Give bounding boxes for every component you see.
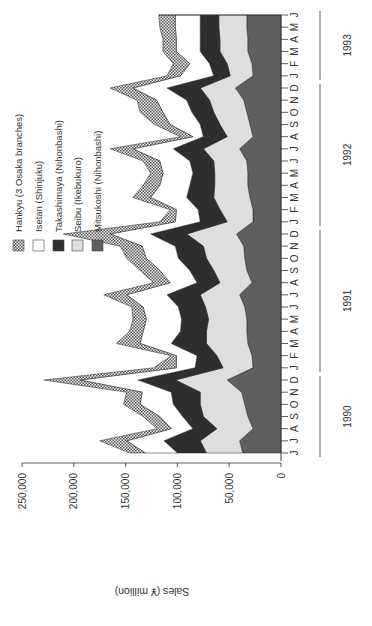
month-tick-label: J (289, 146, 300, 151)
month-tick-label: F (289, 61, 300, 67)
month-tick-label: N (289, 97, 300, 104)
month-tick-label: A (289, 328, 300, 335)
month-tick-label: D (289, 376, 300, 383)
month-tick-label: J (289, 305, 300, 310)
month-tick-label: J (289, 365, 300, 370)
value-tick-label: 100,000 (172, 473, 183, 510)
month-tick-label: J (289, 451, 300, 456)
value-tick-label: 250,000 (17, 473, 28, 510)
month-tick-label: J (289, 159, 300, 164)
value-tick-label: 200,000 (68, 473, 79, 510)
month-tick-label: J (289, 292, 300, 297)
month-tick-label: A (289, 425, 300, 432)
stacked-area-chart: 050,000100,000150,000200,000250,000 JJAS… (0, 0, 372, 626)
month-tick-label: J (289, 438, 300, 443)
year-label: 1993 (342, 34, 353, 57)
legend-label: Mitsukoshi (Nihonbashi) (92, 131, 103, 232)
month-tick-label: M (289, 47, 300, 55)
month-tick-label: O (289, 400, 300, 408)
month-tick-label: F (289, 207, 300, 213)
legend-swatch (33, 240, 44, 251)
year-label: 1990 (342, 405, 353, 428)
time-axis: JJASONDJFMAMJJASONDJFMAMJJASONDJFMAMJ199… (281, 11, 353, 461)
legend-label: Takashimaya (Nihonbashi) (53, 120, 64, 232)
month-tick-label: O (289, 108, 300, 116)
month-tick-label: J (289, 219, 300, 224)
legend-swatch (72, 240, 83, 251)
month-tick-label: J (289, 13, 300, 18)
month-tick-label: M (289, 339, 300, 347)
legend-swatch (13, 240, 24, 251)
month-tick-label: M (289, 315, 300, 323)
month-tick-label: N (289, 243, 300, 250)
year-label: 1991 (342, 289, 353, 312)
month-tick-label: J (289, 73, 300, 78)
value-tick-label: 0 (276, 473, 287, 479)
legend-swatch (53, 240, 64, 251)
legend: Hankyu (3 Osaka branches)Isetan (Shinjuk… (13, 114, 103, 251)
legend-swatch (92, 240, 103, 251)
month-tick-label: S (289, 121, 300, 128)
month-tick-label: N (289, 389, 300, 396)
month-tick-label: A (289, 36, 300, 43)
year-label: 1992 (342, 143, 353, 166)
month-tick-label: M (289, 23, 300, 31)
value-axis: 050,000100,000150,000200,000250,000 (17, 463, 287, 509)
plot-area (44, 15, 281, 453)
legend-label: Seibu (Ikebukuro) (72, 157, 83, 232)
legend-label: Hankyu (3 Osaka branches) (13, 114, 24, 232)
legend-label: Isetan (Shinjuku) (33, 161, 44, 232)
month-tick-label: D (289, 84, 300, 91)
month-tick-label: M (289, 193, 300, 201)
month-tick-label: M (289, 169, 300, 177)
value-tick-label: 50,000 (224, 473, 235, 504)
value-axis-title: Sales (¥ million) (115, 586, 190, 598)
month-tick-label: F (289, 353, 300, 359)
month-tick-label: A (289, 182, 300, 189)
value-tick-label: 150,000 (120, 473, 131, 510)
month-tick-label: S (289, 267, 300, 274)
month-tick-label: O (289, 254, 300, 262)
month-tick-label: S (289, 413, 300, 420)
month-tick-label: A (289, 133, 300, 140)
month-tick-label: D (289, 230, 300, 237)
month-tick-label: A (289, 279, 300, 286)
